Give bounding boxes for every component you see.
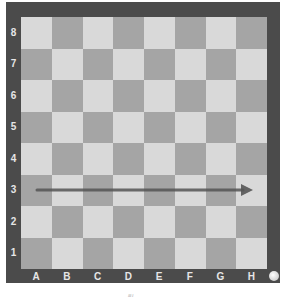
move-arrow-icon: [0, 0, 286, 300]
caption: ⅈⅈⅈⅈ: [128, 293, 133, 298]
